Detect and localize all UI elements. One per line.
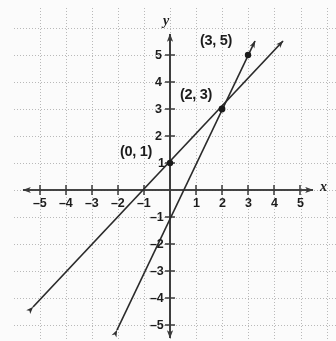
y-tick--4: –4 (150, 292, 164, 305)
data-point-3-5 (245, 52, 251, 58)
point-label-0-1: (0, 1) (120, 144, 152, 159)
line-slope-2 (117, 41, 255, 330)
x-tick--1: –1 (137, 197, 151, 210)
x-tick-1: 1 (193, 197, 200, 210)
data-point-2-3 (219, 106, 226, 113)
x-tick--4: –4 (59, 197, 73, 210)
y-tick-1: 1 (158, 157, 165, 170)
axis-x (23, 185, 313, 195)
x-tick--5: –5 (33, 197, 47, 210)
x-tick-5: 5 (297, 197, 304, 210)
point-label-3-5: (3, 5) (200, 33, 232, 48)
x-tick-2: 2 (219, 197, 226, 210)
data-point-0-1 (167, 160, 173, 166)
graph-figure: x y –5 –4 –3 –2 –1 1 2 3 4 5 5 4 3 2 1 –… (0, 0, 336, 341)
y-tick--3: –3 (150, 265, 164, 278)
x-tick--2: –2 (111, 197, 125, 210)
x-tick-3: 3 (245, 197, 252, 210)
x-tick-4: 4 (271, 197, 278, 210)
y-tick-3: 3 (155, 103, 162, 116)
y-axis-label: y (163, 14, 169, 28)
y-tick-4: 4 (155, 76, 162, 89)
axis-y (165, 34, 175, 338)
y-tick--1: –1 (150, 211, 164, 224)
x-axis-label: x (320, 180, 327, 194)
y-tick-5: 5 (155, 49, 162, 62)
y-tick--5: –5 (150, 319, 164, 332)
x-tick--3: –3 (85, 197, 99, 210)
coordinate-plot (0, 0, 336, 341)
y-tick-2: 2 (155, 130, 162, 143)
point-label-2-3: (2, 3) (180, 87, 212, 102)
y-tick--2: –2 (150, 238, 164, 251)
